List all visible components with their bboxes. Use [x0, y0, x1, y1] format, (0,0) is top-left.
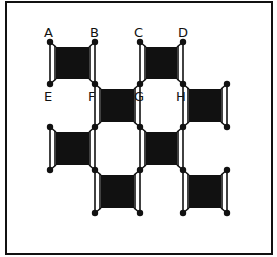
- label-b: B: [90, 26, 99, 39]
- filled-square: [56, 132, 89, 165]
- label-d: D: [178, 26, 188, 39]
- vertex-dot: [92, 81, 98, 87]
- vertex-dot: [224, 81, 230, 87]
- filled-square: [56, 47, 89, 79]
- filled-square: [189, 89, 221, 122]
- filled-square: [101, 89, 134, 122]
- label-h: H: [176, 90, 186, 103]
- vertex-dot: [180, 81, 186, 87]
- label-e: E: [44, 90, 52, 103]
- filled-square: [101, 175, 134, 208]
- filled-square: [146, 47, 177, 79]
- vertex-dot: [92, 124, 98, 130]
- vertex-dot: [180, 210, 186, 216]
- vertex-dot: [47, 167, 53, 173]
- vertex-dot: [92, 167, 98, 173]
- label-f: F: [88, 90, 95, 103]
- label-g: G: [134, 90, 144, 103]
- label-a: A: [44, 26, 53, 39]
- vertex-dot: [224, 167, 230, 173]
- vertex-dot: [47, 81, 53, 87]
- vertex-dot: [224, 210, 230, 216]
- vertex-dot: [137, 124, 143, 130]
- vertex-dot: [180, 124, 186, 130]
- checkerboard-diagram: A B C D E F G H: [0, 0, 277, 257]
- vertex-dot: [137, 210, 143, 216]
- vertex-dot: [180, 167, 186, 173]
- vertex-dot: [224, 124, 230, 130]
- vertex-dot: [92, 210, 98, 216]
- vertex-dot: [137, 167, 143, 173]
- label-c: C: [134, 26, 143, 39]
- filled-square: [146, 132, 177, 165]
- vertex-dot: [137, 81, 143, 87]
- filled-square: [189, 175, 221, 208]
- vertex-dot: [47, 124, 53, 130]
